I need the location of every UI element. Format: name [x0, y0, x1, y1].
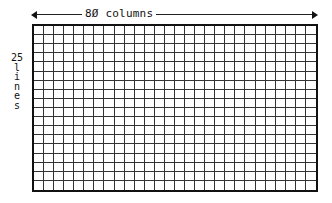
grid-cell: [195, 154, 205, 163]
grid-cell: [195, 72, 205, 81]
grid-cell: [215, 90, 225, 99]
grid-cell: [34, 126, 44, 135]
grid-cell: [64, 26, 74, 35]
grid-cell: [185, 26, 195, 35]
grid-cell: [155, 181, 165, 190]
grid-cell: [296, 81, 306, 90]
grid-cell: [266, 117, 276, 126]
grid-cell: [266, 44, 276, 53]
grid-cell: [286, 53, 296, 62]
grid-cell: [256, 163, 266, 172]
grid-cell: [145, 99, 155, 108]
grid-cell: [64, 99, 74, 108]
grid-cell: [44, 172, 54, 181]
grid-cell: [135, 181, 145, 190]
grid-cell: [145, 163, 155, 172]
grid-cell: [205, 181, 215, 190]
grid-cell: [145, 172, 155, 181]
grid-cell: [296, 126, 306, 135]
grid-cell: [306, 163, 316, 172]
grid-cell: [205, 81, 215, 90]
grid-cell: [256, 126, 266, 135]
grid-cell: [225, 108, 235, 117]
grid-cell: [286, 62, 296, 71]
grid-cell: [165, 72, 175, 81]
grid-cell: [74, 154, 84, 163]
grid-cell: [306, 72, 316, 81]
grid-cell: [185, 154, 195, 163]
grid-cell: [115, 117, 125, 126]
grid-cell: [205, 135, 215, 144]
grid-cell: [185, 181, 195, 190]
grid-cell: [115, 44, 125, 53]
grid-cell: [74, 99, 84, 108]
grid-cell: [115, 90, 125, 99]
grid-cell: [286, 72, 296, 81]
grid-cell: [286, 144, 296, 153]
grid-cell: [135, 108, 145, 117]
grid-cell: [84, 144, 94, 153]
grid-cell: [135, 117, 145, 126]
grid-cell: [44, 99, 54, 108]
grid-cell: [276, 172, 286, 181]
grid-cell: [54, 163, 64, 172]
grid-cell: [135, 53, 145, 62]
grid-cell: [205, 35, 215, 44]
grid-cell: [54, 53, 64, 62]
grid-cell: [225, 72, 235, 81]
grid-cell: [306, 99, 316, 108]
grid-cell: [135, 163, 145, 172]
grid-cell: [94, 99, 104, 108]
grid-cell: [296, 108, 306, 117]
grid-cell: [286, 108, 296, 117]
grid-cell: [74, 62, 84, 71]
grid-cell: [225, 172, 235, 181]
grid-cell: [215, 81, 225, 90]
grid-cell: [205, 126, 215, 135]
grid-cell: [104, 44, 114, 53]
grid-cell: [195, 62, 205, 71]
grid-cell: [115, 26, 125, 35]
grid-cell: [165, 44, 175, 53]
grid-cell: [306, 135, 316, 144]
grid-cell: [125, 90, 135, 99]
grid-cell: [54, 81, 64, 90]
grid-cell: [145, 144, 155, 153]
grid-cell: [276, 117, 286, 126]
grid-cell: [235, 26, 245, 35]
grid-cell: [296, 144, 306, 153]
grid-cell: [235, 163, 245, 172]
grid-cell: [104, 26, 114, 35]
grid-cell: [225, 90, 235, 99]
grid-cell: [125, 62, 135, 71]
grid-cell: [125, 126, 135, 135]
grid-cell: [155, 44, 165, 53]
grid-cell: [155, 53, 165, 62]
grid-cell: [54, 154, 64, 163]
grid-cell: [125, 81, 135, 90]
grid-cell: [276, 154, 286, 163]
grid-cell: [256, 108, 266, 117]
grid-cell: [266, 35, 276, 44]
grid-cell: [34, 62, 44, 71]
grid-cell: [225, 62, 235, 71]
grid-cell: [195, 26, 205, 35]
grid-cell: [44, 181, 54, 190]
grid-cell: [74, 126, 84, 135]
grid-cell: [64, 81, 74, 90]
grid-cell: [185, 81, 195, 90]
grid-cell: [205, 117, 215, 126]
grid-cell: [306, 117, 316, 126]
grid-cell: [125, 135, 135, 144]
grid-cell: [245, 99, 255, 108]
arrow-right-head-icon: [312, 11, 318, 19]
grid-cell: [256, 172, 266, 181]
grid-cell: [266, 144, 276, 153]
grid-cell: [34, 181, 44, 190]
grid-cell: [175, 53, 185, 62]
grid-cell: [245, 53, 255, 62]
grid-cell: [266, 135, 276, 144]
grid-cell: [175, 44, 185, 53]
grid-cell: [266, 72, 276, 81]
grid-cell: [286, 135, 296, 144]
